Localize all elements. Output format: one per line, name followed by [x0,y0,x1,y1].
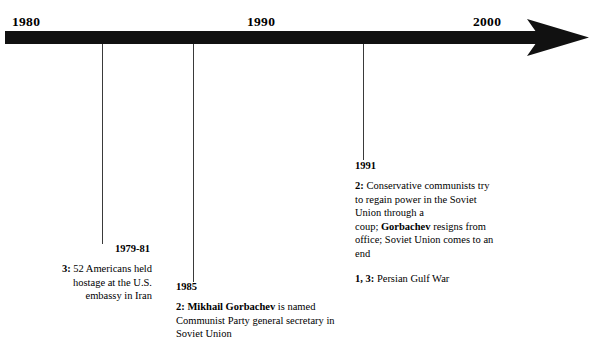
event-year-1979-81: 1979-81 [0,243,150,255]
event-year-1985: 1985 [176,281,348,293]
event-block-1991: 1991 2: Conservative communists try to r… [355,160,497,285]
event-year-1991: 1991 [355,160,497,172]
event-line-2: hostage at the U.S. [73,277,152,288]
timeline-bar [5,31,545,44]
event-text-gorbachev-secretary: 2: Mikhail Gorbachev is named Communist … [176,300,348,341]
event-marker-2: 2: [176,301,185,312]
axis-year-1990: 1990 [247,15,275,29]
event-text-gulf-war-label: Persian Gulf War [374,273,449,284]
axis-year-2000: 2000 [473,15,501,29]
event-line-1: 52 Americans held [71,263,152,274]
event-name-gorbachev: Mikhail Gorbachev [185,301,275,312]
event-text-gulf-war: 1, 3: Persian Gulf War [355,272,497,286]
event-line-3: embassy in Iran [86,290,152,301]
timeline-arrowhead [527,19,589,56]
event-marker-3: 3: [62,263,71,274]
event-block-1979-81: 1979-81 3: 52 Americans held hostage at … [0,243,152,303]
event-marker-1-3: 1, 3: [355,273,374,284]
event-text-soviet-collapse: 2: Conservative communists try to regain… [355,179,497,261]
event-name-gorbachev: Gorbachev [381,221,431,232]
axis-year-1980: 1980 [12,15,40,29]
event-block-1985: 1985 2: Mikhail Gorbachev is named Commu… [176,281,348,341]
event-text-hostage-crisis: 3: 52 Americans held hostage at the U.S.… [0,262,152,303]
event-marker-2: 2: [355,180,364,191]
